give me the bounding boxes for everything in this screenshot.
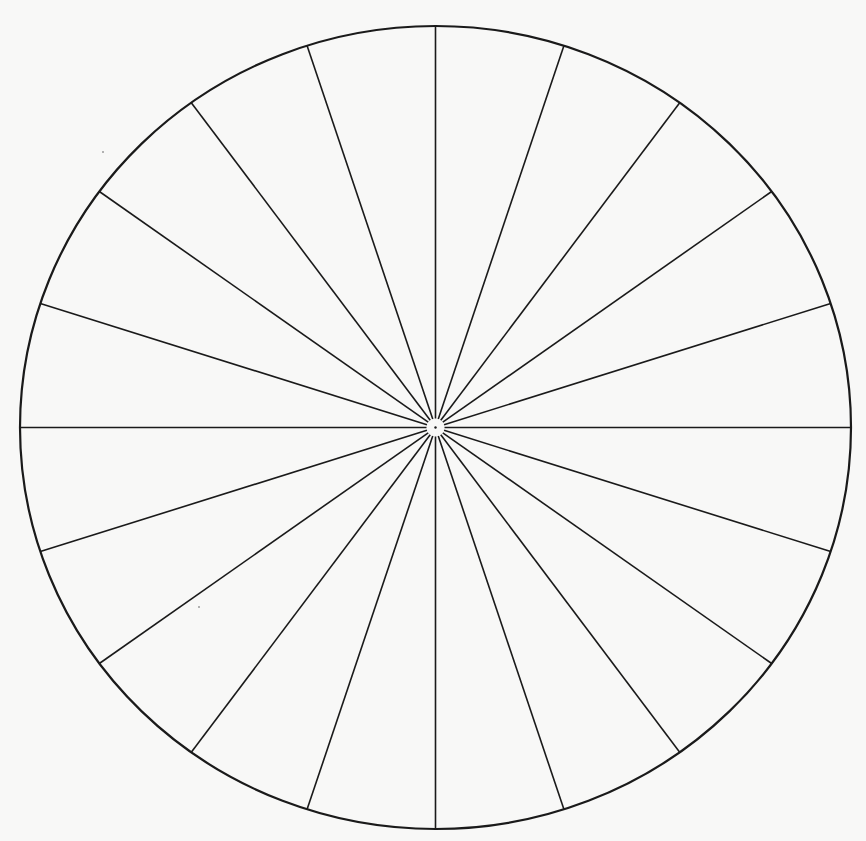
spoke-line: [438, 46, 564, 419]
spoke-line: [99, 433, 428, 664]
spoke-line: [191, 435, 430, 753]
spoke-line: [40, 303, 427, 424]
spoke-line: [443, 433, 772, 664]
center-dot: [434, 426, 436, 428]
paper-sheet: [0, 0, 866, 841]
paper-speck: [102, 151, 104, 153]
spoke-line: [444, 430, 831, 551]
paper-speck: [198, 606, 200, 608]
spoke-line: [307, 46, 433, 419]
spoke-line: [438, 436, 564, 809]
spoke-wheel-diagram: [0, 0, 866, 841]
spoke-line: [443, 192, 772, 423]
spoke-line: [191, 103, 430, 421]
spoke-line: [444, 303, 831, 424]
spoke-line: [307, 436, 433, 809]
spoke-line: [441, 435, 680, 753]
spoke-line: [40, 430, 427, 551]
spoke-line: [441, 103, 680, 421]
spoke-line: [99, 192, 428, 423]
